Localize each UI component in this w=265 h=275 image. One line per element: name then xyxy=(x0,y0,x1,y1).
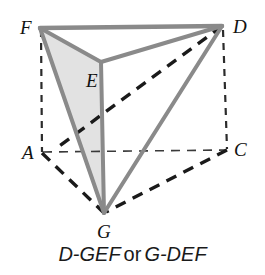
solid-edge-f-d xyxy=(40,26,222,28)
figure-caption: D-GEForG-DEF xyxy=(0,244,265,264)
caption-conjunction: or xyxy=(121,243,145,265)
hidden-edge-a-c xyxy=(43,150,226,152)
vertex-label-a: A xyxy=(22,143,34,162)
vertex-label-e: E xyxy=(86,71,98,90)
prism-diagram-svg xyxy=(0,0,265,275)
vertex-label-d: D xyxy=(233,17,247,36)
vertex-label-c: C xyxy=(234,140,247,159)
caption-name-alternate: G-DEF xyxy=(144,243,206,265)
caption-name-primary: D-GEF xyxy=(58,243,120,265)
hidden-edge-f-a xyxy=(41,30,42,152)
vertex-label-f: F xyxy=(20,18,32,37)
vertex-label-g: G xyxy=(97,222,111,241)
geometry-figure: F D E A C G D-GEForG-DEF xyxy=(0,0,265,275)
hidden-edge-d-c xyxy=(223,30,227,149)
